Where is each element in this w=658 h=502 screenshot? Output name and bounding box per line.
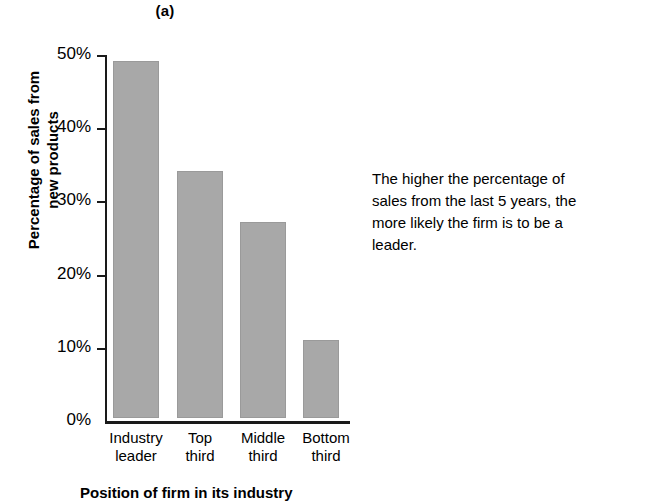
y-tick-20: 20% — [97, 275, 106, 277]
y-axis-title-line-2: new products — [43, 30, 62, 290]
panel-title: (a) — [0, 2, 330, 19]
cat-3-line-1: Bottom — [287, 429, 365, 447]
y-axis-spine — [105, 55, 107, 422]
bar-bottom-third[interactable] — [303, 340, 339, 418]
y-tick-label-50: 50% — [57, 44, 91, 63]
bar-chart-figure: (a) Percentage of sales from new product… — [0, 0, 360, 502]
cat-3-line-2: third — [287, 447, 365, 465]
y-tick-50: 50% — [97, 55, 106, 57]
y-tick-label-20: 20% — [57, 264, 91, 283]
annotation-text: The higher the percentage of sales from … — [372, 168, 640, 256]
bar-top-third[interactable] — [177, 171, 223, 418]
annotation-line-3: more likely the firm is to be a — [372, 212, 640, 234]
y-axis-title-line-1: Percentage of sales from — [24, 30, 43, 290]
plot-area: 50% 40% 30% 20% 10% 0% Industry leader T… — [105, 55, 350, 421]
y-tick-label-0: 0% — [66, 410, 91, 429]
x-axis-title: Position of firm in its industry — [80, 484, 360, 501]
y-tick-label-40: 40% — [57, 117, 91, 136]
x-category-label-bottom-third: Bottom third — [287, 429, 365, 465]
y-tick-30: 30% — [97, 201, 106, 203]
y-tick-40: 40% — [97, 128, 106, 130]
annotation-line-4: leader. — [372, 234, 640, 256]
y-tick-label-30: 30% — [57, 190, 91, 209]
bar-industry-leader[interactable] — [113, 61, 159, 418]
annotation-line-2: sales from the last 5 years, the — [372, 190, 640, 212]
bar-middle-third[interactable] — [240, 222, 286, 418]
y-axis-title: Percentage of sales from new products — [24, 30, 64, 290]
y-tick-10: 10% — [97, 348, 106, 350]
x-axis-baseline — [105, 421, 350, 424]
y-tick-label-10: 10% — [57, 337, 91, 356]
annotation-line-1: The higher the percentage of — [372, 168, 640, 190]
